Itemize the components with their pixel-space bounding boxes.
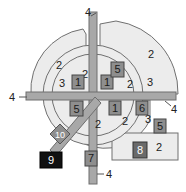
region-label-outer-bottom-right: 2: [156, 141, 162, 153]
box-1-top-left: 1: [72, 75, 84, 89]
region-label-inner-top-right: 2: [127, 78, 133, 90]
region-label-ring-top-right: 3: [147, 76, 153, 88]
svg-text:8: 8: [137, 144, 143, 156]
svg-text:5: 5: [73, 103, 79, 115]
leader-label-top: 4: [85, 6, 91, 18]
box-1-bottom-right: 1: [109, 101, 121, 115]
box-5-left: 5: [70, 101, 83, 116]
region-label-inner-bottom-left: 2: [95, 118, 101, 130]
box-8: 8: [133, 142, 147, 158]
svg-text:5: 5: [114, 63, 120, 75]
box-7: 7: [85, 151, 97, 166]
box-5-right: 5: [154, 119, 166, 133]
svg-text:10: 10: [55, 130, 65, 140]
svg-text:1: 1: [112, 102, 118, 114]
region-label-inner-bottom-right: 2: [122, 115, 128, 127]
box-5-top: 5: [111, 62, 124, 77]
region-label-ring-top-left: 3: [59, 77, 65, 89]
svg-text:1: 1: [75, 76, 81, 88]
svg-text:1: 1: [104, 76, 110, 88]
region-label-outer-top-right: 2: [148, 48, 154, 60]
box-6: 6: [136, 101, 148, 115]
diagram-canvas: 4 4 4 4 2 2 3 3 2 2 2 2 3 2 1 1 1 5 5 5 …: [0, 0, 186, 192]
svg-text:6: 6: [139, 102, 145, 114]
svg-text:7: 7: [88, 152, 94, 164]
svg-text:9: 9: [48, 154, 54, 166]
diagram: 4 4 4 4 2 2 3 3 2 2 2 2 3 2 1 1 1 5 5 5 …: [0, 0, 186, 192]
region-label-outer-top-left: 2: [56, 59, 62, 71]
leader-label-right: 4: [171, 103, 177, 115]
svg-text:5: 5: [157, 120, 163, 132]
box-9: 9: [40, 152, 62, 168]
leader-label-left: 4: [9, 91, 15, 103]
horizontal-bar: [26, 92, 176, 100]
leader-label-bottom: 4: [106, 168, 112, 180]
